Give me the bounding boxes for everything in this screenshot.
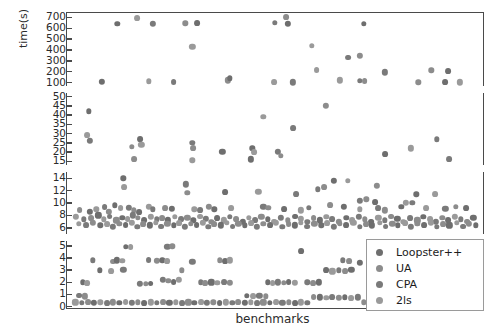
y-tick-mark [67, 17, 72, 18]
data-point [273, 299, 279, 305]
data-point [323, 214, 328, 219]
legend-item[interactable]: UA [373, 260, 477, 276]
data-point [208, 279, 214, 285]
y-axis-label: time(s) [17, 0, 30, 64]
data-point [173, 300, 178, 305]
y-tick-label: 8 [59, 208, 66, 221]
legend-label: Loopster++ [396, 246, 462, 259]
data-point [278, 215, 284, 221]
data-point [284, 14, 290, 20]
data-point [306, 205, 311, 210]
y-tick-mark [67, 161, 72, 162]
data-point [166, 300, 172, 306]
data-point [192, 300, 197, 305]
data-point [235, 299, 241, 305]
y-tick-mark [67, 269, 72, 270]
data-point [228, 205, 234, 211]
data-point [94, 206, 99, 211]
data-point [258, 213, 264, 219]
y-tick-mark [67, 257, 72, 258]
data-point [118, 205, 124, 211]
data-point [342, 295, 347, 300]
y-tick-label: 6 [59, 221, 66, 234]
data-point [407, 215, 413, 221]
data-point [90, 258, 95, 263]
data-point [442, 206, 448, 212]
y-tick-mark [67, 282, 72, 283]
y-tick-mark [67, 227, 72, 228]
data-point [98, 300, 103, 305]
legend-label: 2ls [396, 294, 412, 307]
legend-marker-icon [376, 297, 383, 304]
data-point [286, 300, 291, 305]
legend-marker-icon [376, 281, 383, 288]
data-point [346, 258, 352, 264]
data-point [194, 20, 200, 26]
data-point [337, 221, 342, 226]
data-point [179, 267, 184, 272]
data-point [311, 215, 317, 221]
data-point [285, 21, 291, 27]
data-point [361, 21, 366, 26]
data-point [171, 79, 177, 85]
data-point [330, 216, 336, 222]
data-point [350, 220, 356, 226]
data-point [197, 208, 203, 214]
data-point [343, 222, 349, 228]
y-tick-label: 15 [53, 154, 66, 167]
data-point [388, 214, 394, 220]
data-point [76, 221, 81, 226]
data-point [123, 299, 129, 305]
legend-item[interactable]: Loopster++ [373, 244, 477, 260]
data-point [227, 257, 233, 263]
data-point [356, 198, 362, 204]
data-point [91, 300, 97, 306]
data-point [147, 213, 153, 219]
data-point [356, 260, 362, 266]
data-point [87, 209, 93, 215]
data-point [407, 223, 413, 229]
data-point [399, 204, 404, 209]
data-point [117, 221, 122, 226]
data-point [348, 267, 354, 273]
y-tick-mark [67, 306, 72, 307]
data-point [97, 267, 102, 272]
data-point [248, 220, 254, 226]
y-tick-mark [67, 178, 72, 179]
data-point [375, 205, 381, 211]
scatter-figure: time(s) 700600500400300200100 5045403530… [0, 0, 495, 333]
data-point [131, 157, 137, 163]
data-point [290, 125, 296, 131]
data-point [374, 182, 380, 188]
data-point [323, 267, 329, 273]
data-point [363, 221, 369, 227]
data-point [110, 299, 116, 305]
data-point [129, 144, 134, 149]
y-tick-mark [67, 49, 72, 50]
data-point [415, 80, 420, 85]
y-tick-label: 0 [59, 300, 66, 313]
y-tick-mark [67, 28, 72, 29]
y-tick-label: 2 [59, 275, 66, 288]
data-point [362, 78, 368, 84]
legend-item[interactable]: CPA [373, 276, 477, 292]
data-point [446, 222, 452, 228]
legend-marker-icon [376, 265, 383, 272]
data-point [202, 280, 208, 286]
data-point [286, 221, 292, 227]
data-point [204, 300, 210, 306]
data-point [315, 187, 320, 192]
data-point [217, 300, 223, 306]
data-point [194, 222, 200, 228]
panel-50-15: 5045403530252015 [66, 93, 484, 165]
data-point [434, 136, 439, 141]
data-point [77, 208, 83, 214]
data-point [135, 300, 140, 305]
data-point [271, 79, 277, 85]
legend-item[interactable]: 2ls [373, 292, 477, 308]
data-point [290, 79, 296, 85]
data-point [278, 153, 283, 158]
data-point [107, 214, 113, 220]
data-point [150, 21, 156, 27]
data-point [121, 175, 126, 180]
